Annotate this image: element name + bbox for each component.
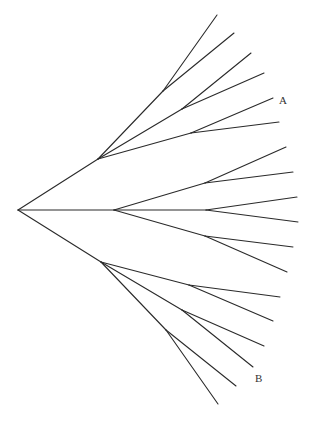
leaf-label-b: B (255, 372, 262, 384)
tree-edge (206, 210, 298, 222)
tree-edge (98, 91, 163, 159)
tree-labels: A B (255, 94, 287, 384)
tree-edge (101, 262, 166, 330)
tree-edge (182, 310, 264, 346)
tree-diagram: A B (0, 0, 313, 421)
tree-edge (18, 159, 98, 210)
tree-edge (114, 210, 205, 236)
leaf-label-a: A (279, 94, 287, 106)
tree-edge (166, 330, 236, 386)
tree-edges (18, 15, 298, 404)
tree-edge (182, 73, 264, 109)
tree-edge (101, 262, 189, 285)
tree-edge (182, 310, 253, 367)
tree-edge (98, 133, 191, 159)
tree-edge (166, 330, 218, 404)
tree-edge (18, 210, 101, 262)
tree-edge (114, 183, 205, 210)
tree-edge (98, 109, 182, 159)
tree-edge (206, 197, 297, 210)
tree-edge (182, 53, 251, 109)
tree-edge (101, 262, 182, 310)
